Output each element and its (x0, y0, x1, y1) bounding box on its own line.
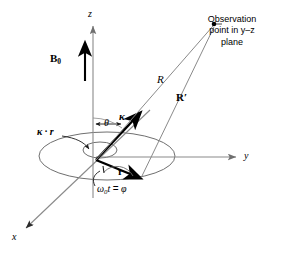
b0-vector-label: B0 (50, 52, 61, 66)
Rprime-ray-label: R′ (176, 91, 187, 103)
kappa-vector-label: κ (119, 110, 125, 122)
observation-point-label: Observation point in y–z plane (188, 14, 276, 48)
phi-arc-tick (103, 166, 104, 173)
observation-line-3: plane (188, 37, 276, 48)
figure-canvas: z y x B0 κ r R R′ θ κ · r ω0t = φ Observ… (0, 0, 284, 253)
R-ray-label: R (157, 73, 164, 85)
r-vector-label: r (118, 165, 123, 177)
orbit-ellipse (39, 132, 175, 180)
x-axis-label: x (12, 231, 16, 242)
y-axis-label: y (244, 150, 248, 161)
b0-subscript: 0 (57, 57, 61, 66)
kappa-dot-r-label: κ · r (37, 126, 54, 137)
z-axis-label: z (88, 8, 92, 19)
observation-line-2: point in y–z (188, 25, 276, 36)
observation-line-1: Observation (188, 14, 276, 25)
time-symbol: t (107, 183, 110, 194)
omega-symbol: ω (97, 183, 104, 194)
phi-symbol: φ (121, 183, 127, 194)
equals-symbol: = (113, 183, 119, 194)
phi-angle-label: ω0t = φ (97, 183, 127, 196)
theta-angle-label: θ (104, 117, 109, 128)
kappa-dot-r-leader (62, 136, 89, 149)
